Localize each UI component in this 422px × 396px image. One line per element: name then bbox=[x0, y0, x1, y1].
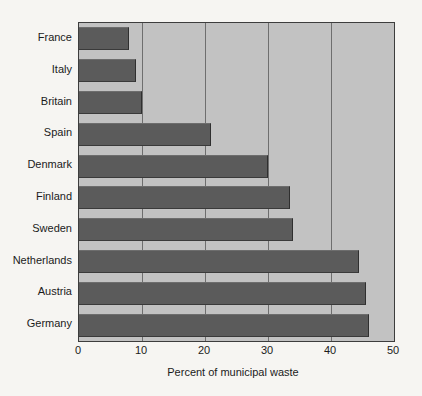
bar-denmark bbox=[79, 155, 268, 178]
bar-row bbox=[79, 250, 394, 273]
x-axis-tick-labels: 01020304050 bbox=[78, 344, 393, 360]
bar-spain bbox=[79, 123, 211, 146]
bar-row bbox=[79, 27, 394, 50]
y-axis-category-labels: FranceItalyBritainSpainDenmarkFinlandSwe… bbox=[0, 22, 72, 340]
y-label-denmark: Denmark bbox=[0, 159, 72, 170]
bar-france bbox=[79, 27, 129, 50]
x-tick-50: 50 bbox=[387, 344, 399, 357]
bar-row bbox=[79, 282, 394, 305]
y-label-italy: Italy bbox=[0, 64, 72, 75]
bar-row bbox=[79, 91, 394, 114]
bar-netherlands bbox=[79, 250, 359, 273]
x-tick-0: 0 bbox=[75, 344, 81, 357]
bar-chart: FranceItalyBritainSpainDenmarkFinlandSwe… bbox=[0, 0, 422, 396]
y-label-britain: Britain bbox=[0, 96, 72, 107]
bar-germany bbox=[79, 314, 369, 337]
x-tick-10: 10 bbox=[135, 344, 147, 357]
y-label-spain: Spain bbox=[0, 127, 72, 138]
bar-row bbox=[79, 218, 394, 241]
bar-row bbox=[79, 123, 394, 146]
x-axis-title: Percent of municipal waste bbox=[0, 366, 422, 378]
bar-sweden bbox=[79, 218, 293, 241]
bar-italy bbox=[79, 59, 136, 82]
y-label-austria: Austria bbox=[0, 286, 72, 297]
bar-britain bbox=[79, 91, 142, 114]
bar-row bbox=[79, 314, 394, 337]
x-tick-30: 30 bbox=[261, 344, 273, 357]
bar-austria bbox=[79, 282, 366, 305]
y-label-germany: Germany bbox=[0, 318, 72, 329]
x-tick-40: 40 bbox=[324, 344, 336, 357]
x-axis-title-text: Percent of municipal waste bbox=[167, 366, 298, 378]
y-label-finland: Finland bbox=[0, 191, 72, 202]
x-tick-20: 20 bbox=[198, 344, 210, 357]
y-label-netherlands: Netherlands bbox=[0, 255, 72, 266]
y-label-france: France bbox=[0, 32, 72, 43]
bar-finland bbox=[79, 186, 290, 209]
bar-row bbox=[79, 155, 394, 178]
bar-row bbox=[79, 59, 394, 82]
plot-area bbox=[78, 22, 395, 342]
bar-row bbox=[79, 186, 394, 209]
y-label-sweden: Sweden bbox=[0, 223, 72, 234]
